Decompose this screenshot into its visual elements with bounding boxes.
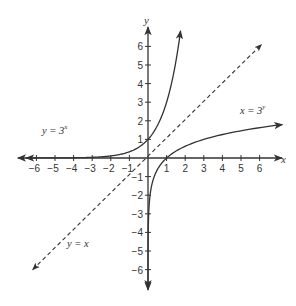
y-tick-label: −1 xyxy=(132,172,144,183)
log-curve xyxy=(148,125,282,289)
y-tick-label: 2 xyxy=(137,116,143,127)
x-tick-label: 1 xyxy=(164,163,170,174)
y-tick-label: 4 xyxy=(137,79,143,90)
x-tick-label: −2 xyxy=(103,163,115,174)
y-axis-label: y xyxy=(143,14,149,26)
identity-line-label: y = x xyxy=(66,238,89,249)
x-tick-label: 5 xyxy=(238,163,244,174)
x-tick-label: −3 xyxy=(84,163,96,174)
x-tick-label: −4 xyxy=(66,163,78,174)
y-tick-label: −3 xyxy=(132,209,144,220)
exp-curve-label: y = 3x xyxy=(41,123,68,136)
x-tick-label: −5 xyxy=(47,163,59,174)
labels: y x y = 3x x = 3y y = x xyxy=(41,14,286,249)
exp-curve xyxy=(18,31,181,158)
x-tick-label: 2 xyxy=(182,163,188,174)
curves xyxy=(18,31,283,288)
x-tick-label: 6 xyxy=(257,163,263,174)
y-tick-label: −2 xyxy=(132,190,144,201)
graph-figure: −6−5−4−3−2−1123456−6−5−4−3−2−1123456 y x… xyxy=(0,0,296,306)
y-tick-label: −5 xyxy=(132,246,144,257)
x-axis-label: x xyxy=(280,153,286,165)
identity-line xyxy=(33,45,262,270)
y-tick-label: 6 xyxy=(137,41,143,52)
x-tick-label: 3 xyxy=(201,163,207,174)
y-tick-label: −4 xyxy=(132,227,144,238)
coordinate-plane: −6−5−4−3−2−1123456−6−5−4−3−2−1123456 y x… xyxy=(0,0,296,306)
y-tick-label: 3 xyxy=(137,97,143,108)
y-tick-label: −6 xyxy=(132,265,144,276)
x-tick-label: −6 xyxy=(29,163,41,174)
y-tick-label: 5 xyxy=(137,60,143,71)
x-tick-label: 4 xyxy=(220,163,226,174)
log-curve-label: x = 3y xyxy=(239,103,266,116)
